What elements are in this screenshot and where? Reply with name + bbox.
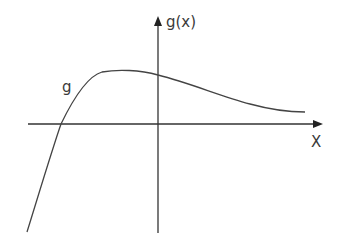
x-axis-arrow-icon — [313, 120, 323, 128]
function-graph: g g(x) X — [0, 0, 339, 247]
x-axis-label: X — [311, 133, 321, 151]
function-label: g — [62, 78, 72, 96]
y-axis-label: g(x) — [166, 13, 196, 31]
y-axis-arrow-icon — [154, 16, 162, 26]
